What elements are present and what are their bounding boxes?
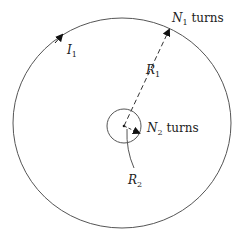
- diagram-svg: [0, 0, 246, 242]
- r2-leader-curve: [127, 129, 134, 168]
- r2-label: R2: [128, 174, 142, 189]
- r2-radius-line: [124, 126, 139, 133]
- r2-sub: 2: [137, 180, 142, 189]
- r1-label: R1: [146, 64, 160, 79]
- n1-suffix: turns: [188, 11, 224, 25]
- r1-sub: 1: [155, 70, 160, 79]
- n2-suffix: turns: [163, 121, 199, 135]
- n1-var: N: [172, 11, 183, 25]
- r2-var: R: [128, 173, 137, 187]
- n2-var: N: [147, 121, 158, 135]
- diagram-canvas: N1 turns R1 I1 N2 turns R2: [0, 0, 246, 242]
- n2-turns-label: N2 turns: [147, 122, 199, 137]
- n1-turns-label: N1 turns: [172, 12, 224, 27]
- i1-label: I1: [67, 44, 77, 59]
- r1-var: R: [146, 63, 155, 77]
- i1-sub: 1: [72, 50, 77, 59]
